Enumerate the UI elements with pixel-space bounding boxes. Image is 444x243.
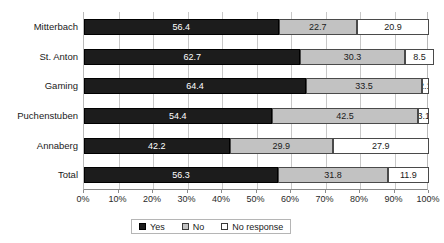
bar-segment-no: 33.5 <box>306 78 422 94</box>
legend-item-yes[interactable]: Yes <box>139 222 165 232</box>
bar-value-label: 56.4 <box>173 22 191 32</box>
category-label: Mitterbach <box>0 22 78 32</box>
gridline <box>395 12 396 189</box>
category-label: Puchenstuben <box>0 111 78 121</box>
x-axis-tick-label: 10% <box>108 194 126 204</box>
bar-value-label: 42.2 <box>148 141 166 151</box>
legend-item-no-response[interactable]: No response <box>221 222 283 232</box>
bar-value-label: 8.5 <box>413 52 426 62</box>
x-axis-tick <box>256 190 257 193</box>
bar-segment-no-response: 20.9 <box>357 19 429 35</box>
gridline <box>119 12 120 189</box>
bar-row: 42.229.927.9 <box>84 138 427 154</box>
x-axis-tick <box>83 190 84 193</box>
x-axis-tick <box>290 190 291 193</box>
bar-value-label: 33.5 <box>355 81 373 91</box>
bar-segment-yes: 62.7 <box>84 49 300 65</box>
bar-segment-no-response: 27.9 <box>333 138 429 154</box>
bar-value-label: 20.9 <box>384 22 402 32</box>
category-label: St. Anton <box>0 52 78 62</box>
x-axis-tick-label: 20% <box>143 194 161 204</box>
x-axis-tick-label: 30% <box>177 194 195 204</box>
bar-segment-yes: 54.4 <box>84 108 272 124</box>
stacked-bar-chart: MitterbachSt. AntonGamingPuchenstubenAnn… <box>0 0 444 243</box>
bar-row: 64.433.52.1 <box>84 78 427 94</box>
category-label: Gaming <box>0 81 78 91</box>
x-axis-tick <box>394 190 395 193</box>
chart-legend: YesNoNo response <box>131 219 291 234</box>
bar-value-label: 2.1 <box>422 81 429 91</box>
bar-value-label: 30.3 <box>344 52 362 62</box>
bar-segment-yes: 56.4 <box>84 19 279 35</box>
gridline <box>360 12 361 189</box>
bar-row: 56.331.811.9 <box>84 167 427 183</box>
bar-segment-no: 30.3 <box>300 49 405 65</box>
x-axis-tick-label: 100% <box>416 194 439 204</box>
category-axis-labels: MitterbachSt. AntonGamingPuchenstubenAnn… <box>0 12 78 190</box>
x-axis-tick <box>428 190 429 193</box>
plot-area: 56.422.720.962.730.38.564.433.52.154.442… <box>83 12 428 190</box>
x-axis-tick-label: 80% <box>350 194 368 204</box>
gridline <box>222 12 223 189</box>
x-axis-tick <box>152 190 153 193</box>
x-axis-tick-label: 40% <box>212 194 230 204</box>
bar-segment-no: 29.9 <box>230 138 333 154</box>
x-axis-tick <box>359 190 360 193</box>
bar-value-label: 11.9 <box>400 170 417 180</box>
legend-item-no[interactable]: No <box>182 222 205 232</box>
category-label: Total <box>0 170 78 180</box>
bar-segment-no-response: 2.1 <box>422 78 429 94</box>
legend-label: Yes <box>150 222 165 232</box>
legend-swatch-icon <box>139 223 146 230</box>
bar-value-label: 54.4 <box>169 111 187 121</box>
gridline <box>257 12 258 189</box>
bar-segment-no-response: 8.5 <box>405 49 434 65</box>
legend-swatch-icon <box>221 223 228 230</box>
x-axis: 0%10%20%30%40%50%60%70%80%90%100% <box>83 190 429 208</box>
gridline <box>326 12 327 189</box>
bar-segment-no-response: 11.9 <box>388 167 429 183</box>
bar-segment-yes: 42.2 <box>84 138 230 154</box>
gridline <box>153 12 154 189</box>
x-axis-tick <box>187 190 188 193</box>
x-axis-tick-label: 90% <box>384 194 402 204</box>
x-axis-tick-label: 50% <box>246 194 264 204</box>
bar-value-label: 64.4 <box>186 81 204 91</box>
category-label: Annaberg <box>0 141 78 151</box>
x-axis-tick-label: 60% <box>281 194 299 204</box>
bar-segment-no: 42.5 <box>272 108 419 124</box>
bar-value-label: 29.9 <box>272 141 290 151</box>
x-axis-tick <box>221 190 222 193</box>
bar-value-label: 27.9 <box>372 141 390 151</box>
bar-value-label: 31.8 <box>324 170 342 180</box>
x-axis-tick-label: 0% <box>76 194 89 204</box>
bar-row: 54.442.53.1 <box>84 108 427 124</box>
bar-value-label: 42.5 <box>336 111 354 121</box>
bar-value-label: 62.7 <box>183 52 201 62</box>
bar-row: 56.422.720.9 <box>84 19 427 35</box>
legend-label: No <box>193 222 205 232</box>
x-axis-tick <box>118 190 119 193</box>
gridline <box>291 12 292 189</box>
x-axis-tick-label: 70% <box>315 194 333 204</box>
gridline <box>188 12 189 189</box>
bar-row: 62.730.38.5 <box>84 49 427 65</box>
bar-segment-no-response: 3.1 <box>418 108 429 124</box>
bar-segment-no: 22.7 <box>279 19 357 35</box>
bar-segment-yes: 56.3 <box>84 167 278 183</box>
x-axis-tick <box>325 190 326 193</box>
bar-segment-no: 31.8 <box>278 167 388 183</box>
bar-value-label: 56.3 <box>172 170 190 180</box>
chart-title-clipped <box>0 0 444 7</box>
bar-segment-yes: 64.4 <box>84 78 306 94</box>
bar-value-label: 3.1 <box>418 111 429 121</box>
legend-swatch-icon <box>182 223 189 230</box>
legend-label: No response <box>232 222 283 232</box>
bar-value-label: 22.7 <box>309 22 327 32</box>
